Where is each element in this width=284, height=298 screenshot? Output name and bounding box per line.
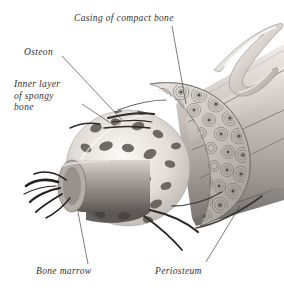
bone-anatomy-figure: Casing of compact bone Osteon Inner laye… [0,0,284,298]
bone-illustration-artwork [0,0,284,298]
label-casing-of-compact-bone: Casing of compact bone [74,13,174,25]
label-inner-layer-of-spongy-bone: Inner layer of spongy bone [14,79,86,114]
label-inner-line-3: bone [14,102,34,112]
label-bone-marrow: Bone marrow [36,266,91,278]
label-inner-line-1: Inner layer [14,79,60,89]
label-inner-line-2: of spongy [14,91,54,101]
label-periosteum: Periosteum [155,266,202,278]
label-osteon: Osteon [24,47,53,59]
